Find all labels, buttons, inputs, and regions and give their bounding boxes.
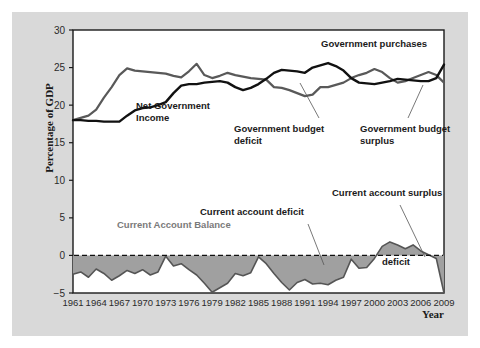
y-axis-ticks: 302520151050−5: [54, 25, 73, 299]
annotation-budget-surplus-line2: surplus: [360, 135, 394, 146]
x-tick-label: 2003: [387, 297, 408, 308]
y-tick-label: 25: [54, 62, 66, 73]
annotation-net-government-income-line2: Income: [136, 112, 169, 123]
x-tick-label: 1967: [109, 297, 130, 308]
x-tick-label: 1985: [248, 297, 269, 308]
annotation-current-account-deficit: Current account deficit: [200, 206, 305, 217]
x-tick-label: 1991: [294, 297, 315, 308]
x-tick-label: 1994: [317, 297, 338, 308]
x-tick-label: 2009: [433, 297, 454, 308]
x-tick-label: 1973: [155, 297, 176, 308]
x-axis-ticks: 1961196419671970197319761979198219851988…: [62, 297, 454, 308]
y-tick-label: 15: [54, 137, 66, 148]
plot-area-wrapper: 302520151050−5 1961196419671970197319761…: [12, 12, 468, 336]
x-tick-label: 1988: [271, 297, 292, 308]
x-tick-label: 1976: [178, 297, 199, 308]
x-tick-label: 1961: [62, 297, 83, 308]
x-tick-label: 1970: [132, 297, 153, 308]
x-tick-label: 1964: [86, 297, 107, 308]
x-tick-label: 2000: [364, 297, 385, 308]
y-tick-label: 10: [54, 175, 66, 186]
annotation-current-account-surplus: Current account surplus: [332, 187, 442, 198]
y-tick-label: 0: [59, 250, 65, 261]
annotation-budget-surplus-line1: Government budget: [360, 123, 451, 134]
y-tick-label: 30: [54, 25, 66, 36]
y-tick-label: 20: [54, 100, 66, 111]
annotation-net-government-income-line1: Net Government: [136, 100, 211, 111]
annotation-government-purchases: Government purchases: [321, 38, 427, 49]
annotation-current-account-balance: Current Account Balance: [117, 219, 231, 230]
chart-svg: 302520151050−5 1961196419671970197319761…: [12, 12, 468, 336]
x-tick-label: 1982: [225, 297, 246, 308]
x-axis-title: Year: [422, 308, 444, 320]
y-tick-label: 5: [59, 212, 65, 223]
chart-figure: Percentage of GDP 302520151050−5 1961196…: [12, 12, 468, 336]
x-tick-label: 1979: [202, 297, 223, 308]
annotation-deficit: deficit: [382, 256, 411, 267]
x-tick-label: 2006: [410, 297, 431, 308]
annotation-budget-deficit-line1: Government budget: [234, 123, 325, 134]
annotation-budget-deficit-line2: deficit: [234, 135, 263, 146]
x-tick-label: 1997: [341, 297, 362, 308]
